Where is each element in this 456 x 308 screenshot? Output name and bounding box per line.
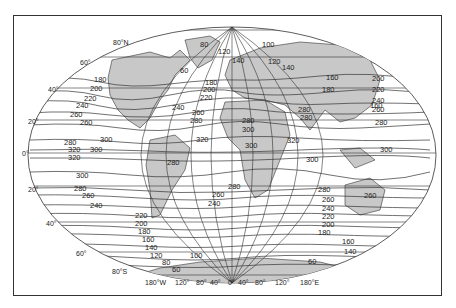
svg-text:0°: 0° bbox=[228, 279, 235, 286]
svg-text:140: 140 bbox=[344, 247, 357, 256]
svg-text:220: 220 bbox=[200, 93, 213, 102]
svg-text:80°N: 80°N bbox=[113, 39, 129, 46]
svg-text:280: 280 bbox=[228, 182, 241, 191]
svg-text:100: 100 bbox=[262, 40, 275, 49]
svg-text:200: 200 bbox=[90, 84, 103, 93]
svg-text:300: 300 bbox=[245, 141, 258, 150]
svg-text:80°: 80° bbox=[196, 279, 207, 286]
svg-text:280: 280 bbox=[190, 116, 203, 125]
svg-text:80°S: 80°S bbox=[112, 268, 128, 275]
svg-text:320: 320 bbox=[196, 135, 209, 144]
svg-text:200: 200 bbox=[372, 74, 385, 83]
svg-text:260: 260 bbox=[372, 105, 385, 114]
svg-text:180°W: 180°W bbox=[145, 279, 166, 286]
svg-text:260: 260 bbox=[212, 190, 225, 199]
svg-text:40°: 40° bbox=[238, 279, 249, 286]
world-map: 180 200 220 240 260 260 280 300 320 300 … bbox=[0, 0, 456, 308]
svg-text:60: 60 bbox=[308, 257, 316, 266]
svg-text:260: 260 bbox=[80, 118, 93, 127]
svg-text:180: 180 bbox=[318, 228, 331, 237]
svg-text:120: 120 bbox=[268, 57, 281, 66]
svg-text:300: 300 bbox=[100, 135, 113, 144]
svg-text:260: 260 bbox=[364, 191, 377, 200]
svg-text:300: 300 bbox=[306, 155, 319, 164]
svg-text:40°: 40° bbox=[210, 279, 221, 286]
svg-text:240: 240 bbox=[372, 96, 385, 105]
svg-text:120: 120 bbox=[218, 47, 231, 56]
svg-text:60: 60 bbox=[172, 265, 180, 274]
svg-text:40°: 40° bbox=[48, 86, 59, 93]
svg-text:100: 100 bbox=[190, 251, 203, 260]
svg-text:120°: 120° bbox=[275, 279, 290, 286]
svg-text:300: 300 bbox=[242, 125, 255, 134]
svg-text:120°: 120° bbox=[175, 279, 190, 286]
svg-text:300: 300 bbox=[380, 145, 393, 154]
svg-text:180°E: 180°E bbox=[300, 279, 319, 286]
svg-text:220: 220 bbox=[372, 85, 385, 94]
svg-text:120: 120 bbox=[150, 251, 163, 260]
svg-text:240: 240 bbox=[208, 199, 221, 208]
svg-text:260: 260 bbox=[82, 191, 95, 200]
svg-text:260: 260 bbox=[322, 195, 335, 204]
svg-text:160: 160 bbox=[342, 237, 355, 246]
svg-text:300: 300 bbox=[76, 171, 89, 180]
svg-text:280: 280 bbox=[242, 116, 255, 125]
svg-text:140: 140 bbox=[232, 56, 245, 65]
svg-text:280: 280 bbox=[318, 185, 331, 194]
svg-text:140: 140 bbox=[282, 63, 295, 72]
svg-text:180: 180 bbox=[322, 85, 335, 94]
svg-text:320: 320 bbox=[287, 136, 300, 145]
svg-text:180: 180 bbox=[94, 75, 107, 84]
svg-text:60°: 60° bbox=[76, 250, 87, 257]
svg-text:40°: 40° bbox=[46, 220, 57, 227]
svg-text:160: 160 bbox=[326, 73, 339, 82]
svg-text:80: 80 bbox=[200, 40, 208, 49]
svg-text:320: 320 bbox=[68, 153, 81, 162]
svg-text:240: 240 bbox=[76, 101, 89, 110]
svg-text:60°: 60° bbox=[80, 59, 91, 66]
svg-text:0°: 0° bbox=[22, 150, 29, 157]
svg-text:80°: 80° bbox=[255, 279, 266, 286]
svg-text:280: 280 bbox=[375, 118, 388, 127]
svg-text:20°: 20° bbox=[28, 118, 39, 125]
svg-text:300: 300 bbox=[90, 145, 103, 154]
svg-text:280: 280 bbox=[167, 158, 180, 167]
svg-text:20°: 20° bbox=[28, 186, 39, 193]
svg-text:60: 60 bbox=[180, 66, 188, 75]
svg-text:80: 80 bbox=[162, 258, 170, 267]
svg-text:280: 280 bbox=[300, 113, 313, 122]
longitude-labels: 180°W 120° 80° 40° 0° 40° 80° 120° 180°E bbox=[145, 279, 319, 286]
svg-text:240: 240 bbox=[172, 103, 185, 112]
svg-text:240: 240 bbox=[90, 201, 103, 210]
